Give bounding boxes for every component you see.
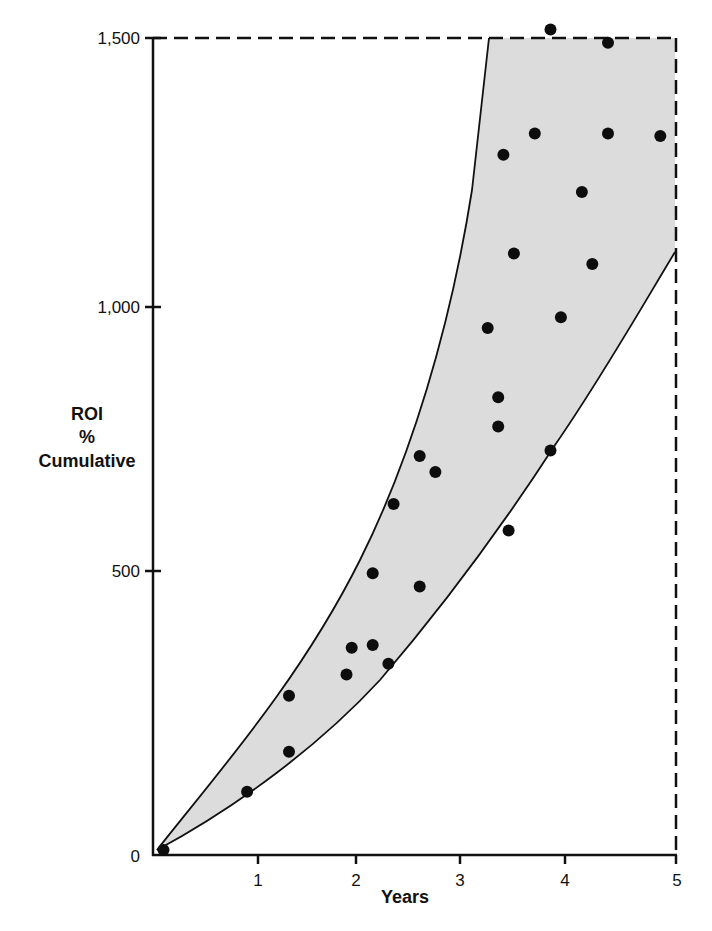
data-point xyxy=(283,690,295,702)
data-point xyxy=(388,498,400,510)
x-tick-label-5: 5 xyxy=(672,871,681,890)
y-tick-label-0: 0 xyxy=(131,847,140,866)
roi-range-band xyxy=(157,38,675,850)
roi-scatter-chart: 1,500 1,000 500 0 1 2 3 4 5 Years ROI % … xyxy=(0,0,712,931)
x-ticks xyxy=(258,855,676,864)
x-tick-label-3: 3 xyxy=(455,871,464,890)
y-tick-label-1000: 1,000 xyxy=(97,298,140,317)
y-axis-title-line1: ROI xyxy=(71,404,103,424)
y-axis-title-line3: Cumulative xyxy=(38,451,135,471)
data-point xyxy=(492,421,504,433)
data-point xyxy=(602,37,614,49)
data-point xyxy=(414,581,426,593)
data-point xyxy=(241,786,253,798)
data-point xyxy=(545,24,557,36)
y-axis-title-line2: % xyxy=(79,427,95,447)
data-point xyxy=(503,525,515,537)
data-point xyxy=(545,445,557,457)
x-tick-label-2: 2 xyxy=(351,871,360,890)
data-point xyxy=(482,322,494,334)
data-point xyxy=(414,450,426,462)
x-tick-label-1: 1 xyxy=(253,871,262,890)
data-point xyxy=(158,844,170,856)
data-point xyxy=(529,127,541,139)
data-point xyxy=(654,130,666,142)
data-point xyxy=(283,746,295,758)
data-point xyxy=(576,186,588,198)
data-point xyxy=(346,642,358,654)
x-tick-label-4: 4 xyxy=(560,871,569,890)
x-axis-title: Years xyxy=(381,887,429,907)
data-point xyxy=(382,658,394,670)
data-point xyxy=(429,466,441,478)
data-point xyxy=(497,149,509,161)
data-point xyxy=(555,311,567,323)
data-point xyxy=(602,127,614,139)
data-point xyxy=(341,668,353,680)
data-point xyxy=(367,639,379,651)
data-point xyxy=(508,247,520,259)
y-tick-label-500: 500 xyxy=(112,562,140,581)
data-point xyxy=(586,258,598,270)
data-point xyxy=(367,567,379,579)
y-tick-label-1500: 1,500 xyxy=(97,29,140,48)
data-point xyxy=(492,391,504,403)
